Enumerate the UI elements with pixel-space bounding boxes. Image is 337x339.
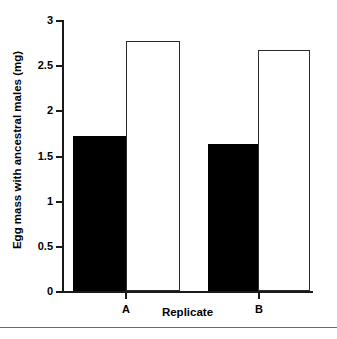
y-tick-label: 0 [47, 285, 53, 297]
y-tick-mark [56, 156, 63, 158]
bar-b-open [258, 50, 310, 291]
chart-figure: Egg mass with ancestral males (mg) 0 0.5… [0, 0, 337, 339]
y-axis-title-text: Egg mass with ancestral males (mg) [11, 51, 23, 249]
y-tick-mark [56, 201, 63, 203]
y-tick-label: 0.5 [38, 240, 53, 252]
bar-a-open [126, 41, 180, 291]
x-axis-title: Replicate [62, 306, 313, 318]
bar-a-filled [73, 136, 126, 291]
y-tick-label: 3 [47, 14, 53, 26]
y-tick-label: 1 [47, 195, 53, 207]
y-tick-mark [56, 110, 63, 112]
y-tick-label: 2.5 [38, 59, 53, 71]
y-tick-mark [56, 246, 63, 248]
bar-b-filled [208, 144, 258, 291]
page-divider-rule [0, 327, 337, 328]
x-tick-mark-a [125, 292, 127, 299]
y-tick-label: 2 [47, 104, 53, 116]
y-tick-label: 1.5 [38, 150, 53, 162]
x-axis-line [62, 291, 313, 293]
y-tick-mark [56, 291, 63, 293]
y-tick-mark [56, 65, 63, 67]
x-tick-mark-b [258, 292, 260, 299]
y-axis-title: Egg mass with ancestral males (mg) [8, 25, 26, 275]
plot-area: 0 0.5 1 1.5 2 2.5 3 [62, 20, 313, 291]
y-tick-mark [56, 20, 63, 22]
